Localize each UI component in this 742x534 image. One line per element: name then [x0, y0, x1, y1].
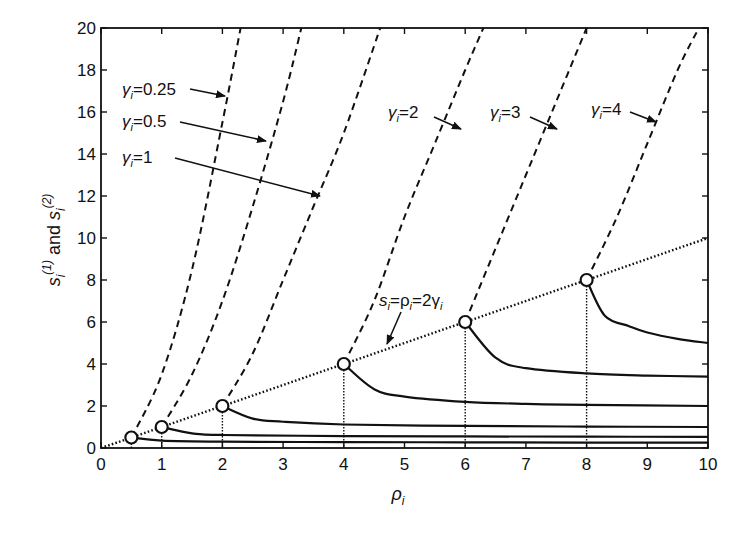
y-tick-label: 20: [77, 19, 96, 38]
svg-text:γi=0.5: γi=0.5: [122, 112, 167, 133]
annotation-gamma-0.5: γi=0.5: [122, 112, 266, 141]
x-axis-title: ρi: [391, 484, 405, 508]
y-tick-label: 6: [87, 313, 96, 332]
dashed-curve: [222, 28, 380, 406]
y-tick-label: 18: [77, 61, 96, 80]
svg-text:γi=2: γi=2: [388, 103, 418, 124]
diagonal-dotted-line: [101, 238, 708, 448]
y-tick-label: 12: [77, 187, 96, 206]
x-tick-label: 2: [218, 455, 227, 474]
x-tick-label: 7: [521, 455, 530, 474]
annotation-gamma-3: γi=3: [490, 103, 557, 129]
branch-point-circle: [125, 432, 137, 444]
branch-point-circle: [581, 274, 593, 286]
branch-point-markers: [125, 274, 592, 444]
x-tick-label: 6: [460, 455, 469, 474]
x-tick-label: 8: [582, 455, 591, 474]
y-tick-label: 8: [87, 271, 96, 290]
x-tick-label: 4: [339, 455, 348, 474]
svg-text:γi=1: γi=1: [122, 148, 152, 169]
axis-ticks: [101, 28, 708, 448]
svg-text:γi=0.25: γi=0.25: [122, 80, 176, 101]
x-tick-label: 1: [157, 455, 166, 474]
branch-point-circle: [156, 421, 168, 433]
y-tick-label: 4: [87, 355, 96, 374]
x-tick-label: 0: [96, 455, 105, 474]
plot-frame: [101, 28, 708, 448]
y-tick-label: 16: [77, 103, 96, 122]
dashed-curve: [587, 28, 699, 280]
x-tick-label: 3: [278, 455, 287, 474]
vertical-dotted-lines: [131, 280, 586, 448]
dashed-curve: [344, 28, 484, 364]
dashed-curve: [465, 28, 586, 322]
svg-text:si=ρi=2γi: si=ρi=2γi: [379, 291, 443, 312]
y-tick-label: 10: [77, 229, 96, 248]
y-tick-label: 2: [87, 397, 96, 416]
annotation-gamma-0.25: γi=0.25: [122, 80, 225, 101]
x-tick-label: 5: [400, 455, 409, 474]
svg-text:γi=3: γi=3: [490, 103, 520, 124]
x-tick-label: 9: [643, 455, 652, 474]
solid-curve: [162, 427, 708, 437]
y-tick-label: 14: [77, 145, 96, 164]
svg-text:γi=4: γi=4: [591, 100, 621, 121]
chart: 01234567891002468101214161820 γi=0.25 γi…: [0, 0, 742, 534]
branch-point-circle: [216, 400, 228, 412]
dashed-curves: [131, 28, 699, 438]
solid-curve: [587, 280, 708, 343]
branch-point-circle: [459, 316, 471, 328]
branch-point-circle: [338, 358, 350, 370]
annotation-gamma-4: γi=4: [591, 100, 656, 122]
dashed-curve: [162, 28, 302, 427]
x-tick-label: 10: [699, 455, 718, 474]
annotation-gamma-1: γi=1: [122, 148, 320, 196]
y-axis-title: si(1) and si(2): [40, 194, 68, 287]
y-tick-label: 0: [87, 439, 96, 458]
solid-curve: [344, 364, 708, 406]
solid-curve: [131, 438, 708, 443]
annotation-diagonal: si=ρi=2γi: [379, 291, 443, 344]
